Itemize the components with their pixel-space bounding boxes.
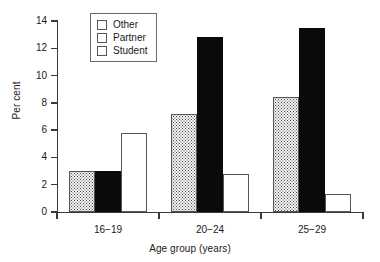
- legend-swatch-icon: [97, 33, 107, 43]
- bar-partner-2[interactable]: [299, 28, 325, 212]
- legend-label: Partner: [113, 33, 146, 43]
- bar-group: [273, 21, 351, 212]
- legend-item-partner[interactable]: Partner: [97, 31, 147, 44]
- bar-student-0[interactable]: [121, 133, 147, 212]
- bar-student-2[interactable]: [325, 194, 351, 212]
- y-axis-tick-label: 10: [7, 71, 47, 81]
- y-axis-tick-label: 8: [7, 98, 47, 108]
- x-axis-line: [57, 212, 363, 213]
- legend-item-other[interactable]: Other: [97, 18, 147, 31]
- legend-swatch-icon: [97, 20, 107, 30]
- bar-other-0[interactable]: [69, 171, 95, 212]
- legend-label: Other: [113, 20, 138, 30]
- y-axis-tick-label: 6: [7, 125, 47, 135]
- x-axis-tick: [260, 212, 261, 219]
- x-axis-tick-label: 20−24: [170, 224, 250, 235]
- y-axis-tick-label: 0: [7, 207, 47, 217]
- x-axis-tick: [158, 212, 159, 219]
- y-axis-tick-label: 2: [7, 180, 47, 190]
- x-axis-tick: [362, 212, 363, 219]
- x-axis-tick-label: 25−29: [272, 224, 352, 235]
- bar-partner-0[interactable]: [95, 171, 121, 212]
- x-axis-tick-label: 16−19: [68, 224, 148, 235]
- bar-group: [171, 21, 249, 212]
- bar-other-2[interactable]: [273, 97, 299, 212]
- chart-legend: OtherPartnerStudent: [90, 13, 157, 62]
- x-axis-title: Age group (years): [0, 243, 380, 254]
- legend-label: Student: [113, 46, 147, 56]
- y-axis-tick-label: 4: [7, 152, 47, 162]
- y-axis-tick-label: 14: [7, 16, 47, 26]
- bar-other-1[interactable]: [171, 114, 197, 212]
- bar-student-1[interactable]: [223, 174, 249, 212]
- y-axis-tick-label: 12: [7, 43, 47, 53]
- legend-item-student[interactable]: Student: [97, 44, 147, 57]
- legend-swatch-icon: [97, 46, 107, 56]
- bar-chart: Per cent 02468101214 16−1920−2425−29 Age…: [0, 0, 380, 262]
- bar-partner-1[interactable]: [197, 37, 223, 212]
- x-axis-tick: [56, 212, 57, 219]
